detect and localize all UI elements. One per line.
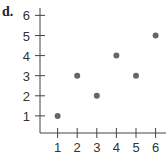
data-point: [113, 53, 119, 59]
x-tick-label: 2: [74, 140, 81, 153]
x-tick-label: 3: [93, 140, 100, 153]
y-tick-label: 1: [23, 109, 30, 124]
y-tick-label: 5: [23, 29, 30, 44]
data-point: [55, 113, 61, 119]
scatter-chart: 123456123456: [0, 0, 168, 153]
x-tick-label: 5: [132, 140, 139, 153]
y-tick-label: 4: [23, 49, 30, 64]
y-tick-label: 6: [23, 8, 30, 23]
data-point: [153, 33, 159, 39]
y-tick-label: 3: [23, 69, 30, 84]
x-tick-label: 1: [54, 140, 61, 153]
y-tick-label: 2: [23, 89, 30, 104]
data-point: [74, 73, 80, 79]
x-tick-label: 4: [113, 140, 120, 153]
x-tick-label: 6: [152, 140, 159, 153]
data-point: [94, 93, 100, 99]
data-point: [133, 73, 139, 79]
